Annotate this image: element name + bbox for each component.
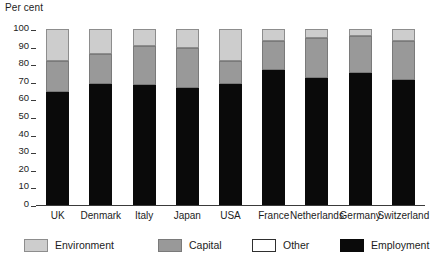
y-axis-title: Per cent <box>5 2 43 13</box>
bar-segment-environment[interactable] <box>305 29 328 38</box>
bar-segment-environment[interactable] <box>133 29 156 46</box>
y-axis-tick-label: 70 <box>18 76 29 86</box>
bar-column[interactable] <box>176 29 199 205</box>
legend-label: Other <box>283 239 309 252</box>
x-axis-label: Switzerland <box>378 209 430 222</box>
bar-column[interactable] <box>219 29 242 205</box>
environment-swatch <box>24 239 48 252</box>
bar-segment-environment[interactable] <box>392 29 415 41</box>
bar-segment-environment[interactable] <box>349 29 372 36</box>
y-axis-tick-label: 30 <box>18 146 29 156</box>
legend-label: Capital <box>189 239 222 252</box>
bar-column[interactable] <box>392 29 415 205</box>
bar-stack <box>176 29 199 205</box>
bar-segment-capital[interactable] <box>392 41 415 80</box>
x-axis-labels: UKDenmarkItalyJapanUSAFranceNetherlandsG… <box>36 209 425 225</box>
bar-column[interactable] <box>133 29 156 205</box>
plot-area <box>36 30 425 206</box>
bar-column[interactable] <box>46 29 69 205</box>
legend-label: Environment <box>55 239 114 252</box>
bar-segment-capital[interactable] <box>219 61 242 84</box>
bar-stack <box>133 29 156 205</box>
bar-segment-employment[interactable] <box>46 92 69 205</box>
legend-item[interactable]: Other <box>252 236 309 254</box>
y-axis: 0102030405060708090100 <box>0 30 36 207</box>
other-swatch <box>252 239 276 252</box>
bar-segment-capital[interactable] <box>176 48 199 88</box>
bar-segment-employment[interactable] <box>219 84 242 205</box>
bar-segment-capital[interactable] <box>349 36 372 73</box>
legend-item[interactable]: Capital <box>158 236 222 254</box>
x-axis-label: France <box>258 209 289 222</box>
y-axis-tick-label: 80 <box>18 58 29 68</box>
bar-stack <box>46 29 69 205</box>
bar-segment-employment[interactable] <box>349 73 372 205</box>
bar-segment-employment[interactable] <box>305 78 328 205</box>
legend-item[interactable]: Environment <box>24 236 114 254</box>
bar-stack <box>305 29 328 205</box>
x-axis-label: Japan <box>174 209 201 222</box>
capital-swatch <box>158 239 182 252</box>
bar-segment-capital[interactable] <box>133 46 156 86</box>
bar-segment-environment[interactable] <box>219 29 242 61</box>
bar-segment-employment[interactable] <box>89 84 112 205</box>
bar-stack <box>349 29 372 205</box>
y-axis-tick-label: 90 <box>18 41 29 51</box>
y-axis-tick-mark <box>31 206 36 207</box>
bar-segment-employment[interactable] <box>176 88 199 205</box>
bar-segment-capital[interactable] <box>46 61 69 93</box>
y-axis-tick-label: 20 <box>18 164 29 174</box>
bar-column[interactable] <box>262 29 285 205</box>
legend-item[interactable]: Employment <box>340 236 429 254</box>
y-axis-tick-label: 50 <box>18 111 29 121</box>
bar-stack <box>262 29 285 205</box>
bar-segment-capital[interactable] <box>305 38 328 78</box>
bar-segment-environment[interactable] <box>176 29 199 48</box>
bar-column[interactable] <box>305 29 328 205</box>
x-axis-label: Netherlands <box>290 209 344 222</box>
bar-segment-capital[interactable] <box>89 54 112 85</box>
bar-segment-environment[interactable] <box>262 29 285 41</box>
bar-segment-capital[interactable] <box>262 41 285 70</box>
bar-segment-environment[interactable] <box>46 29 69 61</box>
x-axis-label: Germany <box>340 209 381 222</box>
bar-stack <box>89 29 112 205</box>
x-axis-label: Denmark <box>81 209 122 222</box>
legend-label: Employment <box>371 239 429 252</box>
y-axis-tick-label: 0 <box>24 199 29 209</box>
bar-column[interactable] <box>89 29 112 205</box>
bar-stack <box>392 29 415 205</box>
employment-swatch <box>340 239 364 252</box>
y-axis-tick-label: 10 <box>18 181 29 191</box>
bar-stack <box>219 29 242 205</box>
y-axis-tick-label: 100 <box>13 23 29 33</box>
bar-segment-environment[interactable] <box>89 29 112 54</box>
bar-segment-employment[interactable] <box>392 80 415 205</box>
bar-column[interactable] <box>349 29 372 205</box>
x-axis-label: Italy <box>135 209 153 222</box>
bar-segment-employment[interactable] <box>133 85 156 205</box>
y-axis-tick-label: 60 <box>18 93 29 103</box>
x-axis-label: USA <box>220 209 241 222</box>
x-axis-label: UK <box>51 209 65 222</box>
x-axis-line <box>36 205 425 206</box>
chart-legend: EnvironmentCapitalOtherEmployment <box>0 236 431 258</box>
bar-segment-employment[interactable] <box>262 70 285 205</box>
y-axis-tick-label: 40 <box>18 129 29 139</box>
